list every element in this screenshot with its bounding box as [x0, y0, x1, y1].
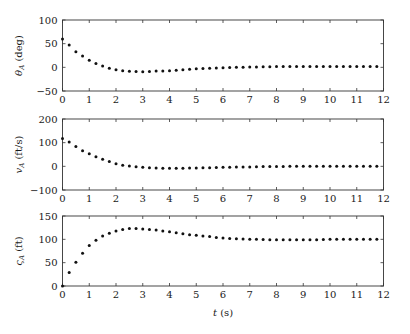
- data-point: [349, 238, 352, 241]
- data-point: [228, 66, 231, 69]
- x-tick-label: 2: [113, 94, 119, 105]
- data-point: [128, 227, 131, 230]
- data-point: [94, 239, 97, 242]
- data-point: [175, 69, 178, 72]
- y-axis-label: θA (deg): [13, 35, 26, 76]
- data-point: [208, 166, 211, 169]
- data-point: [248, 66, 251, 69]
- data-point: [101, 235, 104, 238]
- data-point: [355, 65, 358, 68]
- data-point: [268, 165, 271, 168]
- x-tick-label: 3: [140, 94, 146, 105]
- data-point: [262, 65, 265, 68]
- y-tick-label: 50: [45, 38, 58, 49]
- data-point: [362, 65, 365, 68]
- data-point: [181, 167, 184, 170]
- data-point: [128, 165, 131, 168]
- x-tick-label: 10: [324, 94, 337, 105]
- data-point: [121, 228, 124, 231]
- data-point: [195, 234, 198, 237]
- data-point: [375, 238, 378, 241]
- y-tick-label: 0: [51, 62, 57, 73]
- data-point: [201, 67, 204, 70]
- x-tick-label: 2: [113, 193, 119, 204]
- y-tick-label: 100: [38, 15, 57, 26]
- data-point: [201, 235, 204, 238]
- data-point: [74, 145, 77, 148]
- data-point: [222, 236, 225, 239]
- data-point: [61, 37, 64, 40]
- data-point: [115, 68, 118, 71]
- data-point: [355, 165, 358, 168]
- data-point: [121, 69, 124, 72]
- data-point: [161, 69, 164, 72]
- x-tick-label: 8: [273, 289, 279, 300]
- data-point: [101, 64, 104, 67]
- x-tick-label: 12: [377, 193, 390, 204]
- data-point: [88, 59, 91, 62]
- data-point: [175, 167, 178, 170]
- data-point: [81, 54, 84, 57]
- x-tick-label: 12: [377, 289, 390, 300]
- data-point: [369, 65, 372, 68]
- x-tick-label: 2: [113, 289, 119, 300]
- data-point: [235, 166, 238, 169]
- x-tick-label: 12: [377, 94, 390, 105]
- x-tick-label: 5: [193, 289, 199, 300]
- data-point: [308, 65, 311, 68]
- data-point: [275, 65, 278, 68]
- data-point: [288, 238, 291, 241]
- data-point: [342, 238, 345, 241]
- x-tick-label: 7: [247, 94, 253, 105]
- data-point: [74, 50, 77, 53]
- x-tick-label: 3: [140, 289, 146, 300]
- data-point: [228, 237, 231, 240]
- x-tick-label: 0: [59, 193, 65, 204]
- data-point: [242, 166, 245, 169]
- data-point: [322, 165, 325, 168]
- y-tick-label: 200: [38, 114, 57, 125]
- data-point: [168, 167, 171, 170]
- plot-frame: [63, 20, 384, 91]
- x-tick-label: 1: [86, 94, 92, 105]
- data-point: [242, 238, 245, 241]
- data-point: [188, 166, 191, 169]
- plot-frame: [63, 216, 384, 286]
- data-point: [215, 67, 218, 70]
- data-point: [315, 238, 318, 241]
- data-point: [121, 164, 124, 167]
- data-point: [148, 166, 151, 169]
- data-point: [295, 165, 298, 168]
- data-point: [255, 66, 258, 69]
- data-point: [81, 149, 84, 152]
- data-point: [322, 65, 325, 68]
- data-point: [108, 232, 111, 235]
- data-point: [141, 70, 144, 73]
- x-tick-label: 9: [300, 94, 306, 105]
- data-point: [282, 165, 285, 168]
- x-tick-label: 1: [86, 289, 92, 300]
- data-point: [115, 229, 118, 232]
- data-point: [101, 158, 104, 161]
- x-tick-label: 4: [166, 289, 172, 300]
- data-point: [74, 261, 77, 264]
- data-point: [329, 165, 332, 168]
- x-tick-label: 6: [220, 193, 226, 204]
- data-point: [155, 166, 158, 169]
- data-point: [81, 252, 84, 255]
- plot-frame: [63, 119, 384, 190]
- data-point: [208, 67, 211, 70]
- data-point: [262, 165, 265, 168]
- data-point: [128, 70, 131, 73]
- data-point: [322, 238, 325, 241]
- data-point: [195, 67, 198, 70]
- data-point: [222, 66, 225, 69]
- data-point: [108, 160, 111, 163]
- data-point: [282, 238, 285, 241]
- y-tick-label: −50: [36, 86, 57, 97]
- data-point: [235, 66, 238, 69]
- data-point: [302, 165, 305, 168]
- data-point: [195, 166, 198, 169]
- data-point: [302, 65, 305, 68]
- y-tick-label: 0: [51, 161, 57, 172]
